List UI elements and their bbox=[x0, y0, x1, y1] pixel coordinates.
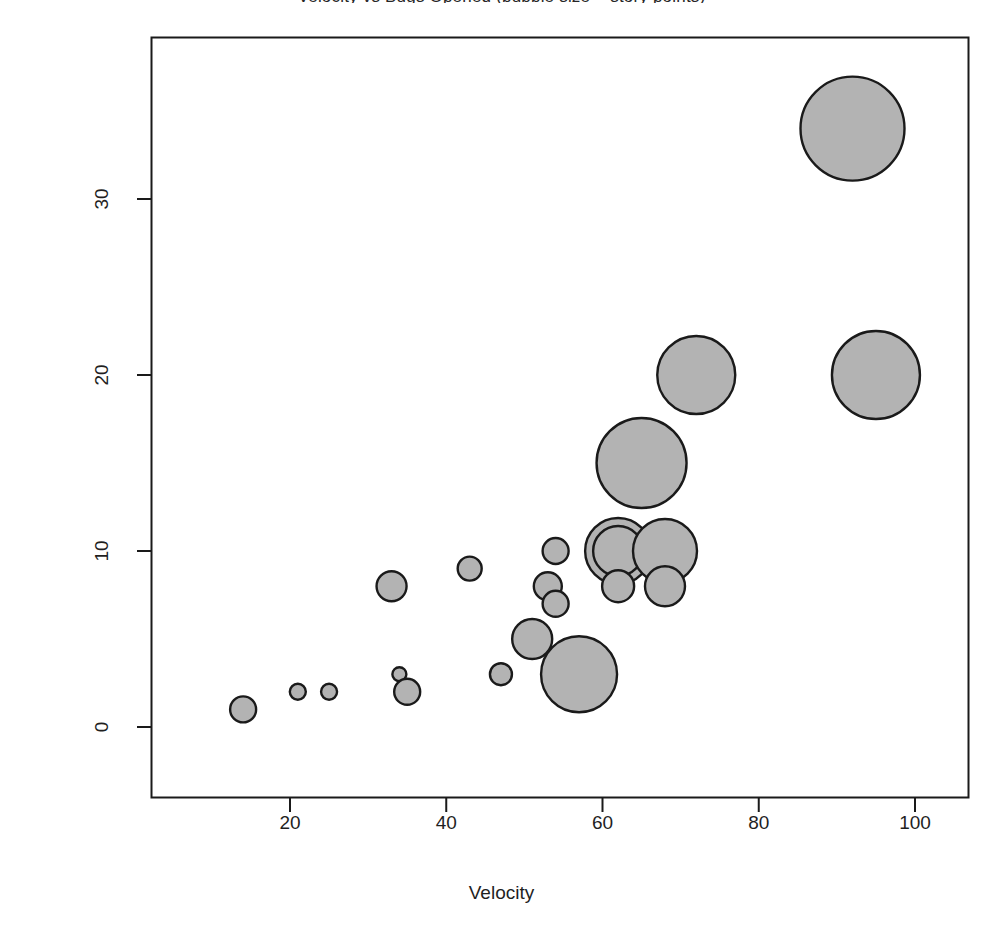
x-tick-label: 40 bbox=[416, 812, 476, 834]
x-tick-label: 80 bbox=[729, 812, 789, 834]
bubble-point bbox=[645, 566, 685, 606]
bubble-point bbox=[597, 418, 687, 508]
bubble-series bbox=[230, 77, 920, 723]
bubble-point bbox=[801, 77, 905, 181]
y-tick-label: 30 bbox=[90, 179, 114, 219]
bubble-point bbox=[377, 571, 407, 601]
chart-figure: Velocity vs Bugs Opened (bubble size = s… bbox=[0, 0, 1003, 942]
y-tick-label: 10 bbox=[90, 531, 114, 571]
bubble-point bbox=[543, 538, 569, 564]
x-tick-label: 20 bbox=[260, 812, 320, 834]
bubble-point bbox=[458, 557, 482, 581]
bubble-point bbox=[321, 684, 337, 700]
y-axis-ticks bbox=[137, 199, 151, 727]
bubble-point bbox=[602, 570, 634, 602]
bubble-point bbox=[490, 663, 512, 685]
bubble-point bbox=[290, 684, 306, 700]
bubble-point bbox=[394, 679, 420, 705]
bubble-point bbox=[543, 591, 569, 617]
x-axis-ticks bbox=[290, 798, 915, 812]
y-tick-label: 0 bbox=[90, 707, 114, 747]
x-tick-label: 100 bbox=[885, 812, 945, 834]
y-tick-label: 20 bbox=[90, 355, 114, 395]
x-tick-label: 60 bbox=[573, 812, 633, 834]
bubble-point bbox=[541, 636, 617, 712]
plot-canvas bbox=[0, 0, 1003, 942]
x-axis-title: Velocity bbox=[0, 882, 1003, 904]
bubble-point bbox=[832, 331, 920, 419]
bubble-point bbox=[230, 696, 256, 722]
bubble-point bbox=[657, 336, 735, 414]
